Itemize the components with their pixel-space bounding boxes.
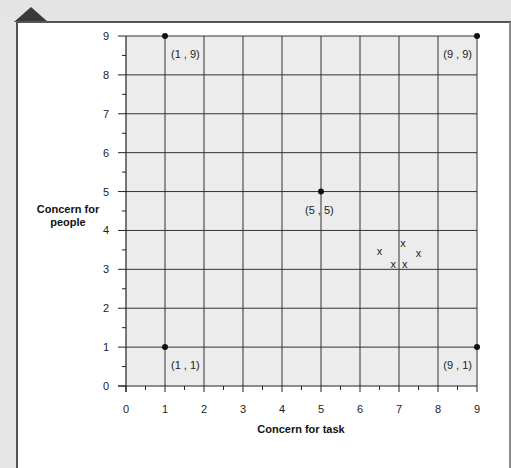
data-point-label: (5 , 5) [305, 204, 334, 216]
x-tick-label: 7 [396, 403, 402, 415]
x-tick-label: 0 [123, 403, 129, 415]
y-tick-label: 6 [103, 147, 109, 159]
plot-grid [118, 36, 477, 392]
x-tick-label: 4 [279, 403, 285, 415]
data-point-label: (9 , 9) [443, 48, 472, 60]
y-tick-label: 2 [103, 302, 109, 314]
cross-marker: x [416, 247, 422, 259]
data-point-dot [474, 33, 480, 39]
data-point-label: (9 , 1) [443, 359, 472, 371]
x-tick-label: 1 [162, 403, 168, 415]
x-tick-label: 3 [240, 403, 246, 415]
x-tick-label: 9 [474, 403, 480, 415]
data-point-label: (1 , 1) [171, 359, 200, 371]
y-tick-label: 5 [103, 186, 109, 198]
y-tick-label: 7 [103, 108, 109, 120]
y-tick-label: 8 [103, 69, 109, 81]
data-point-label: (1 , 9) [171, 48, 200, 60]
x-tick-label: 8 [435, 403, 441, 415]
data-point-dot [162, 344, 168, 350]
cross-marker: x [390, 258, 396, 270]
cross-marker: x [400, 237, 406, 249]
x-tick-label: 5 [318, 403, 324, 415]
cross-marker: x [377, 245, 383, 257]
data-point-dot [318, 189, 324, 195]
x-axis-title: Concern for task [257, 423, 345, 435]
data-point-dot [474, 344, 480, 350]
y-axis-title-line2: people [50, 216, 85, 228]
x-tick-label: 6 [357, 403, 363, 415]
y-axis-title-line1: Concern for [37, 203, 100, 215]
plot-background [126, 36, 477, 386]
cross-marker: x [402, 258, 408, 270]
x-tick-label: 2 [201, 403, 207, 415]
y-tick-label: 3 [103, 263, 109, 275]
data-point-dot [162, 33, 168, 39]
y-tick-label: 4 [103, 224, 109, 236]
y-tick-label: 9 [103, 30, 109, 42]
y-tick-label: 0 [103, 380, 109, 392]
y-tick-label: 1 [103, 341, 109, 353]
